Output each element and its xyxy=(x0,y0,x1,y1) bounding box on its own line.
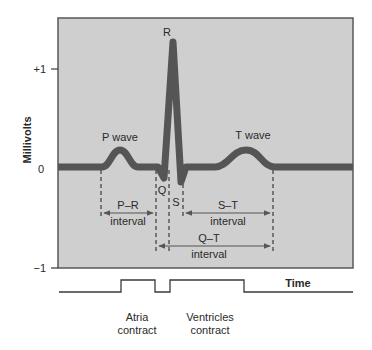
tick-label-minus1: −1 xyxy=(33,262,46,274)
ecg-diagram: +1 0 −1 Millivolts P wave R Q S T wave P… xyxy=(0,0,372,350)
s-label: S xyxy=(172,196,179,208)
q-label: Q xyxy=(158,184,167,196)
atria-contract-line2: contract xyxy=(117,324,156,336)
qt-interval-name: Q–T xyxy=(198,232,220,244)
tick-label-zero: 0 xyxy=(38,163,44,175)
r-label: R xyxy=(163,26,171,38)
atria-contract-line1: Atria xyxy=(126,311,150,323)
ventricles-contract-line1: Ventricles xyxy=(186,311,234,323)
ventricles-contract-line2: contract xyxy=(190,324,229,336)
st-interval-name: S–T xyxy=(218,199,238,211)
tick-label-plus1: +1 xyxy=(33,63,46,75)
st-interval-sub: interval xyxy=(210,215,245,227)
t-wave-label: T wave xyxy=(235,129,270,141)
pr-interval-sub: interval xyxy=(110,215,145,227)
pr-interval-name: P–R xyxy=(117,199,138,211)
y-axis-label: Millivolts xyxy=(21,116,33,163)
qt-interval-sub: interval xyxy=(191,248,226,260)
x-axis-label: Time xyxy=(285,277,310,289)
plot-panel xyxy=(58,18,353,268)
p-wave-label: P wave xyxy=(102,131,138,143)
